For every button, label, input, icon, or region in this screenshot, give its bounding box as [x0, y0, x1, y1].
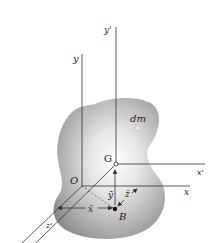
point-b-label: B: [118, 211, 126, 222]
y-bar-label: ȳ: [107, 190, 114, 200]
z-bar-label: z̄: [124, 189, 130, 199]
center-of-mass-label: G: [104, 153, 112, 164]
center-of-mass-point: [114, 162, 118, 166]
mass-element-point: [136, 126, 140, 130]
x-prime-axis-label: x': [197, 168, 204, 177]
y-axis-label: y: [72, 53, 79, 64]
x-axis-label: x: [184, 187, 189, 197]
z-prime-axis-label: z': [45, 221, 52, 230]
origin-label: O: [70, 175, 78, 186]
point-b: [113, 207, 117, 211]
dm-label: dm: [130, 113, 146, 124]
diagram: y y' x x' z' O G B dm x̄ ȳ z̄: [0, 0, 218, 243]
rigid-body: [54, 98, 165, 239]
x-bar-label: x̄: [88, 204, 93, 214]
y-prime-axis-label: y': [103, 25, 112, 35]
